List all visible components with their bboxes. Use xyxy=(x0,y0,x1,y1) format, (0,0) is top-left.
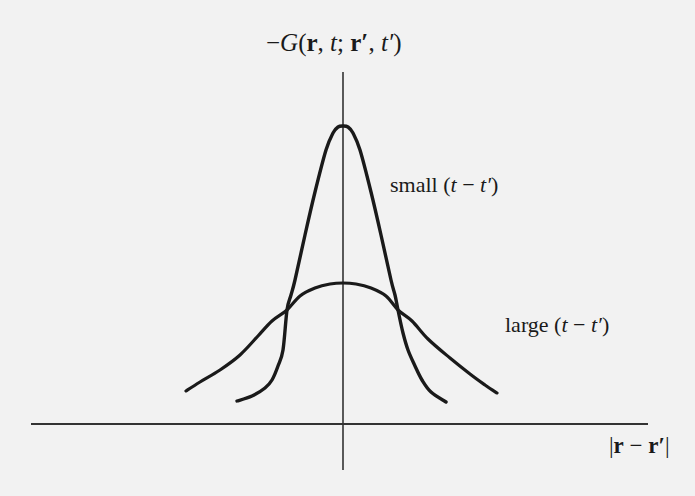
paren-open: ( xyxy=(438,172,451,197)
curve-large-t xyxy=(186,283,497,393)
minus-sign: − xyxy=(624,433,648,458)
symbol-t-prime: t′ xyxy=(480,172,491,197)
y-axis-title: −G(r, t; r′, t′) xyxy=(266,30,402,55)
symbol-G: G xyxy=(280,29,298,56)
paren-close: ) xyxy=(393,29,401,56)
diagram-canvas: −G(r, t; r′, t′) small (t − t′) large (t… xyxy=(0,0,695,496)
semicolon: ; xyxy=(337,29,350,56)
label-word: large xyxy=(505,312,549,337)
plot-svg xyxy=(0,0,695,496)
symbol-r-prime: r′ xyxy=(648,433,665,458)
paren-close: ) xyxy=(491,172,498,197)
comma: , xyxy=(318,29,331,56)
symbol-r-prime: r′ xyxy=(350,29,368,56)
paren-close: ) xyxy=(602,312,609,337)
curve-small-t xyxy=(237,126,446,402)
symbol-t-prime: t′ xyxy=(381,29,393,56)
small-t-label: small (t − t′) xyxy=(390,174,498,196)
minus-sign: − xyxy=(568,312,591,337)
large-t-label: large (t − t′) xyxy=(505,314,609,336)
symbol-t-prime: t′ xyxy=(591,312,602,337)
paren-open: ( xyxy=(549,312,562,337)
paren-open: ( xyxy=(298,29,306,56)
comma: , xyxy=(368,29,381,56)
minus-sign: − xyxy=(266,29,280,56)
abs-bar: | xyxy=(665,433,670,458)
label-word: small xyxy=(390,172,438,197)
minus-sign: − xyxy=(457,172,480,197)
x-axis-label: |r − r′| xyxy=(609,434,670,457)
symbol-r: r xyxy=(614,433,624,458)
symbol-r: r xyxy=(307,29,318,56)
